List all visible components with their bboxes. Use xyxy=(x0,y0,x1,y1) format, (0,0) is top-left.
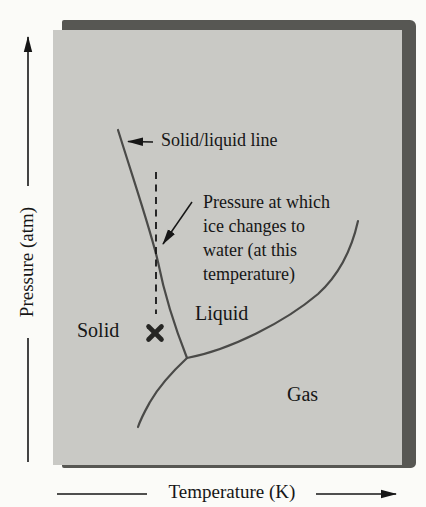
solid-gas-curve xyxy=(138,358,187,427)
region-label-gas: Gas xyxy=(287,383,318,406)
x-axis-label: Temperature (K) xyxy=(169,481,296,503)
pressure-note-line-2: ice changes to xyxy=(203,214,330,238)
y-axis-label: Pressure (atm) xyxy=(16,207,38,317)
x-marker xyxy=(149,327,162,340)
pressure-note-line-3: water (at this xyxy=(203,238,330,262)
region-label-solid: Solid xyxy=(77,319,119,342)
pressure-note-callout: Pressure at which ice changes to water (… xyxy=(203,190,330,286)
solid-liquid-callout-arrow xyxy=(128,142,153,143)
solid-liquid-curve xyxy=(118,130,187,358)
figure-canvas: Pressure (atm) Temperature (K) Solid/liq… xyxy=(0,0,426,507)
solid-liquid-callout-label: Solid/liquid line xyxy=(161,130,278,151)
region-label-liquid: Liquid xyxy=(195,302,248,325)
pressure-note-callout-arrow xyxy=(163,202,192,244)
pressure-note-line-1: Pressure at which xyxy=(203,190,330,214)
pressure-note-line-4: temperature) xyxy=(203,262,330,286)
